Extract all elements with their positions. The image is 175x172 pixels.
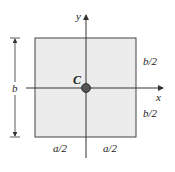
upper-half-label: b/2 bbox=[143, 55, 158, 67]
height-label: b bbox=[12, 82, 18, 94]
y-axis-label: y bbox=[75, 10, 81, 22]
right-half-label: a/2 bbox=[103, 142, 118, 154]
diagram-canvas: b y x C b/2 b/2 a/2 a/2 bbox=[0, 0, 175, 172]
x-axis-label: x bbox=[155, 91, 161, 103]
centroid-marker bbox=[82, 84, 91, 93]
centroid-label: C bbox=[73, 73, 82, 87]
lower-half-label: b/2 bbox=[143, 107, 158, 119]
left-half-label: a/2 bbox=[53, 142, 68, 154]
